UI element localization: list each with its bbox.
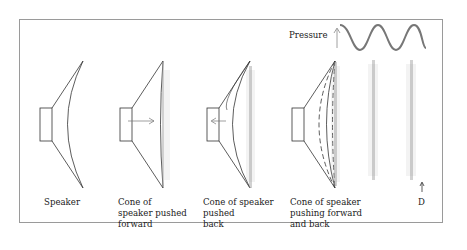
pressure-arrow-icon <box>334 28 340 48</box>
caption-pushed-back: Cone of speaker pushed back <box>203 197 274 230</box>
pressure-label: Pressure <box>289 30 328 40</box>
pressure-dots <box>162 62 170 186</box>
caption-forward-and-back: Cone of speaker pushing forward and back <box>290 197 362 230</box>
pressure-dots <box>246 66 255 188</box>
speaker-icon <box>40 61 83 188</box>
caption-pushed-forward: Cone of speaker pushed forward <box>118 197 187 230</box>
distance-label: D <box>418 197 425 208</box>
speaker-pushed-back-icon <box>207 61 250 188</box>
distance-arrow-icon <box>420 182 424 192</box>
speaker-pushed-forward-icon <box>120 61 163 188</box>
caption-speaker: Speaker <box>44 197 80 208</box>
arrow-left-icon <box>211 118 226 124</box>
sine-wave-icon <box>340 25 426 50</box>
pressure-dots <box>331 60 416 186</box>
speaker-oscillating-icon <box>292 61 335 188</box>
